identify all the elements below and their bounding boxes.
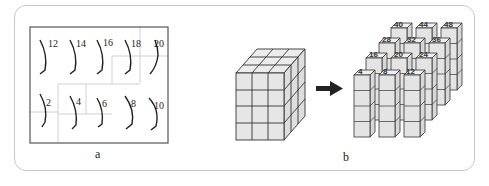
tower-label: 44 — [419, 20, 428, 29]
panel-label-a: a — [95, 147, 100, 162]
stroke-label: 6 — [102, 98, 107, 109]
tower-label: 36 — [432, 35, 441, 44]
stroke-label: 10 — [154, 100, 164, 111]
right-arrow-icon — [316, 81, 343, 96]
tower-label: 24 — [419, 50, 428, 59]
panel-label-b: b — [343, 150, 349, 165]
stroke-label: 20 — [154, 38, 164, 49]
stroke-label: 2 — [46, 97, 51, 108]
tower-label: 28 — [382, 35, 391, 44]
tower-row-front: 4 8 12 — [354, 67, 425, 137]
tower-label: 4 — [358, 67, 363, 76]
tower-label: 48 — [444, 20, 453, 29]
tower-label: 20 — [394, 50, 403, 59]
source-cube — [236, 49, 305, 140]
panel-a: 12 14 16 18 20 2 4 6 8 10 — [29, 27, 168, 143]
tower-label: 40 — [394, 20, 403, 29]
tower-row-2: 16 20 24 — [366, 50, 437, 120]
tower-label: 16 — [369, 50, 378, 59]
stroke-label: 12 — [48, 38, 58, 49]
stroke-label: 16 — [103, 37, 113, 48]
stroke-label: 18 — [131, 38, 141, 49]
stroke-label: 14 — [76, 38, 86, 49]
stroke-label: 8 — [131, 98, 136, 109]
tower-label: 32 — [407, 35, 416, 44]
stroke-label: 4 — [76, 96, 81, 107]
tower-label: 12 — [406, 67, 415, 76]
diagram-canvas: 12 14 16 18 20 2 4 6 8 10 — [0, 0, 489, 186]
tower-label: 8 — [383, 67, 388, 76]
